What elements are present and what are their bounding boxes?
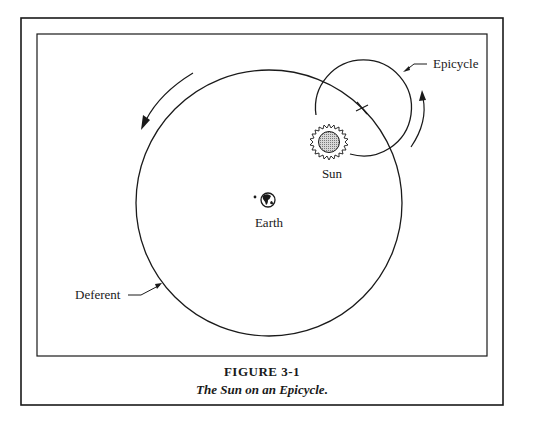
globe-icon xyxy=(254,193,275,207)
epicycle-label: Epicycle xyxy=(433,56,479,71)
inner-frame xyxy=(37,34,487,356)
outer-frame xyxy=(21,18,503,405)
epicycle-motion-arrow xyxy=(411,90,426,147)
figure-number: FIGURE 3-1 xyxy=(224,364,300,379)
earth-label: Earth xyxy=(255,215,284,230)
sun-icon xyxy=(310,124,348,160)
epicycle-diagram: Epicycle Sun Earth Deferent FIGURE 3-1 T… xyxy=(0,0,539,422)
figure-caption: The Sun on an Epicycle. xyxy=(196,382,328,397)
sun-label: Sun xyxy=(322,166,343,181)
deferent-motion-arrow xyxy=(141,73,193,130)
deferent-leader-line xyxy=(128,285,160,295)
cross-marker-icon xyxy=(356,102,368,114)
deferent-label: Deferent xyxy=(75,287,121,302)
